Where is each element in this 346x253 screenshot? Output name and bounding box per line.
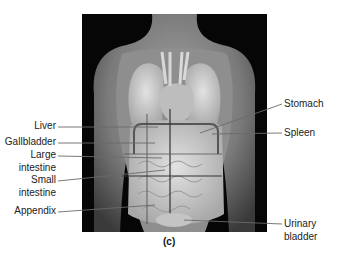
leader-lines	[0, 0, 346, 253]
figure-caption: (c)	[163, 236, 175, 247]
